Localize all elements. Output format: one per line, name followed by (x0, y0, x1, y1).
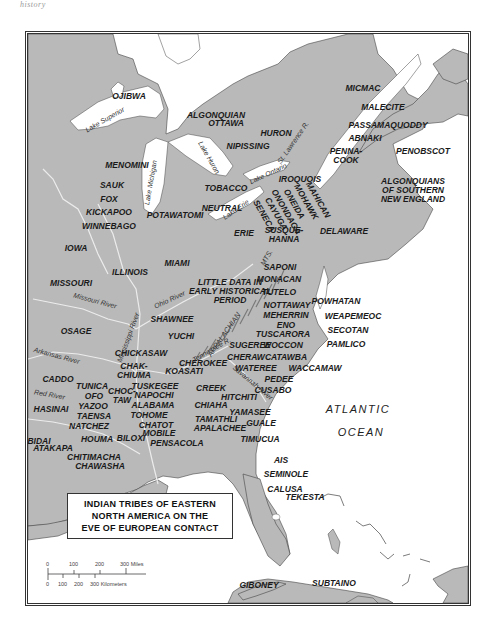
tribe-yazoo: YAZOO (78, 402, 108, 411)
tribe-saponi: SAPONI (264, 263, 297, 272)
tribe-taensa: TAENSA (77, 412, 111, 421)
tribe-illinois: ILLINOIS (112, 268, 148, 277)
tribe-powhatan: POWHATAN (312, 297, 361, 306)
tribe-waccamaw: WACCAMAW (289, 364, 342, 373)
map-title-line-1: INDIAN TRIBES OF EASTERN (84, 498, 216, 510)
tribe-ofo: OFO (85, 392, 103, 401)
tribe-ojibwa: OJIBWA (112, 92, 146, 101)
tribe-secotan: SECOTAN (328, 326, 369, 335)
map-title-line-3: EVE OF EUROPEAN CONTACT (82, 522, 219, 534)
tribe-miami: MIAMI (164, 259, 189, 268)
tribe-osage: OSAGE (61, 327, 92, 336)
ocean-label-atlantic: ATLANTIC (326, 403, 390, 415)
tribe-timucua: TIMUCUA (240, 435, 279, 444)
tribe-menomini: MENOMINI (105, 161, 148, 170)
tribe-iowa: IOWA (65, 244, 88, 253)
tribe-meherrin: MEHERRIN (263, 311, 308, 320)
tribe-delaware: DELAWARE (320, 227, 368, 236)
tribe-potawatomi: POTAWATOMI (147, 211, 204, 220)
scale-bar: 0 100 200 300 Miles 0 100 200 300 Kilome… (46, 561, 166, 591)
tribe-chawasha: CHAWASHA (75, 462, 125, 471)
bahamas-5 (402, 554, 430, 586)
tribe-monacan: MONACAN (257, 275, 301, 284)
map-title-box: INDIAN TRIBES OF EASTERN NORTH AMERICA O… (67, 493, 233, 539)
tribe-koasati: KOASATI (165, 367, 203, 376)
tribe-sugeree: SUGEREE (229, 341, 271, 350)
scale-km-200: 200 (74, 581, 83, 587)
scale-mi-0: 0 (46, 561, 49, 567)
tribe-shawnee: SHAWNEE (151, 315, 194, 324)
tribe-natchez: NATCHEZ (69, 422, 109, 431)
tribe-subtaino: SUBTAINO (312, 579, 356, 588)
scale-km-100: 100 (58, 581, 67, 587)
tribe-algonquians-southern-new-england: ALGONQUIANS OF SOUTHERN NEW ENGLAND (381, 177, 445, 204)
tribe-hasinai: HASINAI (34, 405, 69, 414)
tribe-ottawa: OTTAWA (208, 119, 244, 128)
tribe-apalachee: APALACHEE (194, 424, 246, 433)
tribe-nipissing: NIPISSING (227, 142, 270, 151)
tribe-sauk: SAUK (100, 181, 124, 190)
scale-km-300: 300 Kilometers (90, 581, 127, 587)
tribe-pedee: PEDEE (265, 375, 294, 384)
tribe-houma: HOUMA (81, 435, 113, 444)
tribe-nottaway: NOTTAWAY (264, 301, 311, 310)
tribe-abnaki: ABNAKI (348, 134, 381, 143)
land-hispaniola (433, 566, 468, 603)
ocean-label-ocean: OCEAN (338, 426, 385, 438)
scale-mi-200: 200 (95, 561, 104, 567)
tribe-fox: FOX (100, 195, 117, 204)
tribe-kickapoo: KICKAPOO (86, 208, 132, 217)
tribe-guale: GUALE (246, 419, 276, 428)
tribe-biloxi: BILOXI (117, 434, 145, 443)
tribe-passamaquoddy: PASSAMAQUODDY (348, 121, 427, 130)
tribe-pennacook: PENNA- COOK (330, 147, 363, 165)
lake-north (158, 34, 200, 64)
tribe-tunica: TUNICA (76, 382, 108, 391)
map-title-line-2: NORTH AMERICA ON THE (92, 510, 208, 522)
tribe-napochi: NAPOCHI (134, 391, 173, 400)
tribe-huron: HURON (260, 129, 291, 138)
tribe-missouri: MISSOURI (50, 279, 92, 288)
bahamas-3 (356, 521, 386, 544)
tribe-chakchiuma: CHAK- CHIUMA (117, 362, 151, 380)
bahamas-1 (328, 529, 340, 554)
tribe-chiaha: CHIAHA (194, 401, 227, 410)
tribe-mobile: MOBILE (142, 429, 175, 438)
map-frame: OJIBWA ALGONQUIAN MICMAC MALECITE PASSAM… (27, 33, 469, 604)
tribe-susquehanna: SUSQUE- HANNA (265, 226, 304, 244)
tribe-tutelo: TUTELO (262, 288, 296, 297)
tribe-giboney: GIBONEY (239, 581, 278, 590)
tribe-tohome: TOHOME (130, 411, 167, 420)
tribe-cheraw: CHERAW (227, 353, 265, 362)
page-header-text: history (20, 0, 46, 9)
tribe-seminole: SEMINOLE (264, 470, 308, 479)
tribe-malecite: MALECITE (361, 103, 404, 112)
tribe-caddo: CADDO (42, 375, 73, 384)
lake-okeechobee (272, 514, 280, 520)
tribe-pamlico: PAMLICO (327, 340, 366, 349)
scale-mi-100: 100 (69, 561, 78, 567)
tribe-weapemeoc: WEAPEMEOC (325, 312, 382, 321)
tribe-alabama: ALABAMA (132, 401, 175, 410)
tribe-catawba: CATAWBA (265, 353, 307, 362)
tribe-erie: ERIE (234, 229, 254, 238)
tribe-penobscot: PENOBSCOT (396, 147, 450, 156)
scale-km-0: 0 (46, 581, 49, 587)
bahamas-4 (380, 552, 394, 559)
tribe-tuscarora: TUSCARORA (256, 330, 310, 339)
tribe-winnebago: WINNEBAGO (82, 222, 136, 231)
tribe-pensacola: PENSACOLA (150, 439, 203, 448)
tribe-tobacco: TOBACCO (205, 184, 248, 193)
tribe-micmac: MICMAC (346, 84, 381, 93)
tribe-ais: AIS (274, 456, 288, 465)
tribe-yuchi: YUCHI (168, 332, 194, 341)
scale-mi-300: 300 Miles (120, 561, 144, 567)
tribe-tekesta: TEKESTA (285, 493, 324, 502)
